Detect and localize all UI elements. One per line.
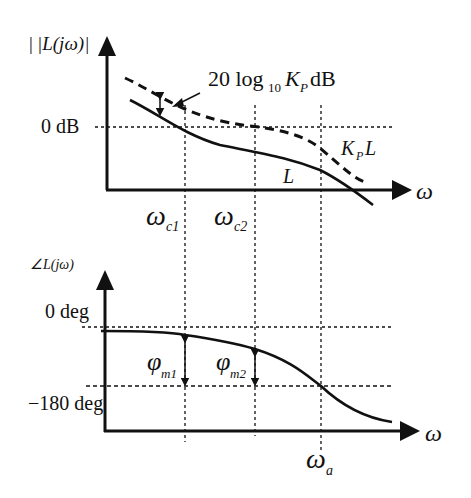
- phase-plot: [82, 270, 420, 441]
- gain-offset-label: 20 log 10 K P dB: [208, 66, 336, 95]
- phase-x-axis-arrow-icon: [400, 421, 420, 441]
- svg-text:ω: ω: [306, 443, 326, 474]
- magnitude-x-axis-arrow-icon: [392, 180, 412, 200]
- phase-margin-1-label: φ m1: [147, 347, 177, 381]
- kpl-magnitude-curve: [125, 78, 368, 183]
- svg-text:ω: ω: [214, 200, 234, 231]
- svg-text:L: L: [364, 137, 376, 159]
- svg-text:m1: m1: [161, 366, 177, 381]
- svg-text:m2: m2: [230, 366, 246, 381]
- wa-label: ω a: [306, 443, 333, 478]
- magnitude-plot: [95, 36, 412, 205]
- svg-text:a: a: [326, 463, 333, 478]
- phase-y-axis-arrow-icon: [96, 270, 114, 290]
- l-curve-label: L: [282, 165, 294, 187]
- svg-text:dB: dB: [310, 66, 336, 91]
- svg-text:P: P: [355, 149, 364, 163]
- wc2-label: ω c2: [214, 200, 247, 234]
- bode-diagram: | |L(jω)| 0 dB 20 log 10 K P dB K P L L …: [0, 0, 471, 498]
- magnitude-y-label: |L(jω)|: [37, 33, 89, 55]
- svg-text:P: P: [299, 80, 308, 95]
- zero-deg-label: 0 deg: [45, 300, 89, 323]
- magnitude-y-label-bar-left: |: [29, 33, 33, 54]
- svg-text:K: K: [340, 137, 356, 159]
- svg-text:c2: c2: [234, 219, 247, 234]
- magnitude-y-axis-arrow-icon: [98, 36, 116, 56]
- phase-curve: [101, 331, 392, 422]
- phase-margin-2-label: φ m2: [216, 347, 246, 381]
- phase-x-label: ω: [425, 420, 442, 446]
- svg-text:c1: c1: [166, 219, 179, 234]
- kpl-curve-label: K P L: [340, 137, 376, 163]
- svg-text:K: K: [284, 66, 301, 91]
- wc1-label: ω c1: [146, 200, 179, 234]
- svg-text:10: 10: [268, 80, 281, 95]
- frequency-guides: [185, 105, 321, 450]
- svg-text:20 log: 20 log: [208, 66, 264, 91]
- magnitude-x-label: ω: [416, 178, 433, 204]
- minus-180-deg-label: −180 deg: [28, 392, 103, 415]
- phase-y-label: ∠L(jω): [30, 257, 74, 273]
- svg-text:ω: ω: [146, 200, 166, 231]
- svg-text:φ: φ: [216, 347, 230, 376]
- zero-db-label: 0 dB: [41, 115, 79, 137]
- gain-label-pointer-arrow-icon: [172, 98, 184, 107]
- svg-text:φ: φ: [147, 347, 161, 376]
